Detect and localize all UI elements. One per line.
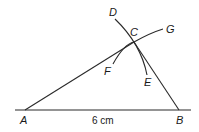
label-d: D [109, 6, 117, 18]
label-c: C [130, 26, 138, 38]
length-label-ab: 6 cm [92, 115, 114, 126]
label-f: F [104, 65, 112, 77]
construction-diagram: A B C D E F G 6 cm [0, 0, 199, 132]
arc-fg [113, 29, 163, 64]
label-a: A [19, 114, 27, 126]
label-b: B [176, 114, 183, 126]
segment-ac [25, 42, 134, 110]
segment-cb [134, 42, 179, 110]
label-g: G [166, 23, 175, 35]
label-e: E [144, 76, 152, 88]
